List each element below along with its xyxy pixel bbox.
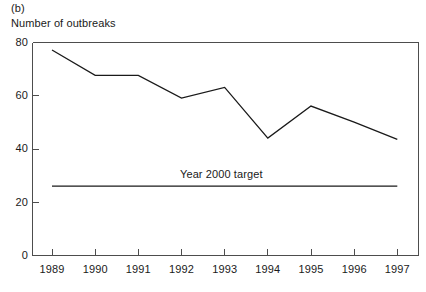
x-tick-label-1997: 1997 xyxy=(375,264,419,275)
line-chart-plot xyxy=(0,0,426,292)
y-tick-label-0: 0 xyxy=(4,250,28,261)
series-line-outbreaks xyxy=(52,50,397,139)
target-line-annotation: Year 2000 target xyxy=(177,168,266,180)
x-tick-label-1991: 1991 xyxy=(116,264,160,275)
x-tick-label-1992: 1992 xyxy=(160,264,204,275)
x-tick-label-1989: 1989 xyxy=(30,264,74,275)
y-tick-label-60: 60 xyxy=(4,90,28,101)
figure-panel-b: (b) Number of outbreaks xyxy=(0,0,426,292)
x-tick-label-1990: 1990 xyxy=(73,264,117,275)
y-tick-label-20: 20 xyxy=(4,197,28,208)
y-axis-ticks xyxy=(33,96,39,203)
x-axis-ticks xyxy=(52,249,397,256)
plot-frame xyxy=(33,43,419,256)
x-tick-label-1994: 1994 xyxy=(246,264,290,275)
y-tick-label-40: 40 xyxy=(4,143,28,154)
x-tick-label-1996: 1996 xyxy=(332,264,376,275)
x-tick-label-1993: 1993 xyxy=(203,264,247,275)
x-tick-label-1995: 1995 xyxy=(289,264,333,275)
y-tick-label-80: 80 xyxy=(4,37,28,48)
